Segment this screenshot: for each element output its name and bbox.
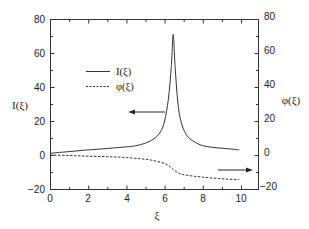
arrow-left-icon	[128, 110, 135, 115]
x-axis-tick-labels: 0 2 4 6 8 10	[47, 193, 247, 204]
arrow-right-icon	[246, 168, 253, 173]
right-axis-arrow	[218, 168, 253, 173]
y-left-tick-20: 20	[34, 116, 46, 127]
series-line-I	[50, 34, 239, 153]
legend: I(ξ) φ(ξ)	[86, 66, 134, 93]
y-right-tick-40: 40	[264, 79, 276, 90]
y-right-tick-0: 0	[264, 147, 270, 158]
series-line-phi	[50, 155, 239, 180]
legend-label-phi: φ(ξ)	[116, 81, 134, 93]
left-y-axis-title: I(ξ)	[12, 99, 28, 112]
x-tick-10: 10	[235, 193, 247, 204]
left-axis-arrow	[128, 110, 165, 115]
dual-axis-line-chart: 80 60 40 20 0 −20 80 60 40 20 0 −20 0 2 …	[0, 0, 309, 229]
y-left-tick-0: 0	[39, 150, 45, 161]
y-left-tick-minus20: −20	[28, 184, 45, 195]
left-y-axis-tick-labels: 80 60 40 20 0 −20	[28, 14, 45, 195]
y-left-tick-60: 60	[34, 48, 46, 59]
plot-frame	[50, 19, 259, 190]
legend-label-I: I(ξ)	[116, 66, 132, 78]
x-tick-4: 4	[124, 193, 130, 204]
y-left-tick-80: 80	[34, 14, 46, 25]
x-tick-8: 8	[200, 193, 206, 204]
y-right-tick-minus20: −20	[260, 181, 277, 192]
axis-ticks	[51, 20, 259, 190]
right-y-axis-tick-labels: 80 60 40 20 0 −20	[260, 11, 277, 192]
y-left-tick-40: 40	[34, 82, 46, 93]
x-tick-6: 6	[162, 193, 168, 204]
x-axis-title: ξ	[155, 209, 160, 222]
y-right-tick-60: 60	[264, 45, 276, 56]
y-right-tick-80: 80	[264, 11, 276, 22]
x-tick-0: 0	[47, 193, 53, 204]
x-tick-2: 2	[85, 193, 91, 204]
right-y-axis-title: φ(ξ)	[282, 94, 301, 107]
y-right-tick-20: 20	[264, 113, 276, 124]
